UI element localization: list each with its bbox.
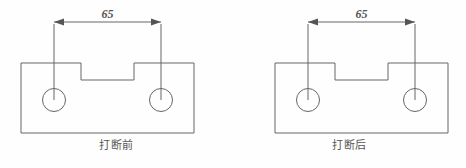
drawing-sheet: 65 打断前 65 打 [0, 0, 466, 168]
dimension-arrow-right-before [151, 19, 161, 26]
dimension-value-after: 65 [356, 7, 368, 21]
part-outline-before [21, 63, 194, 133]
dimension-arrow-left-before [54, 19, 64, 26]
figure-panel-before: 65 打断前 [0, 0, 233, 168]
figure-caption-after: 打断后 [233, 138, 466, 153]
part-outline-after [275, 63, 448, 133]
figure-drawing-before: 65 [0, 0, 233, 145]
figure-drawing-after: 65 [233, 0, 466, 145]
dimension-value-before: 65 [102, 7, 114, 21]
figure-panel-after: 65 打断后 [233, 0, 466, 168]
figure-caption-before: 打断前 [0, 138, 233, 153]
dimension-arrow-left-after [308, 19, 318, 26]
dimension-arrow-right-after [405, 19, 415, 26]
